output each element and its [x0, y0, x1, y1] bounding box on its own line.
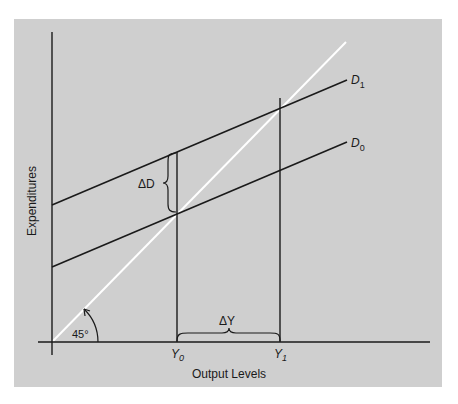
- delta-y-label: ΔY: [219, 314, 235, 328]
- angle-label: 45°: [72, 328, 89, 340]
- y-axis-label: Expenditures: [25, 166, 39, 236]
- delta-d-label: ΔD: [138, 177, 155, 191]
- keynesian-cross-diagram: D1 D0 ΔD ΔY 45° Y0 Y1 Output Levels Expe…: [0, 0, 458, 404]
- x-axis-label: Output Levels: [192, 367, 266, 381]
